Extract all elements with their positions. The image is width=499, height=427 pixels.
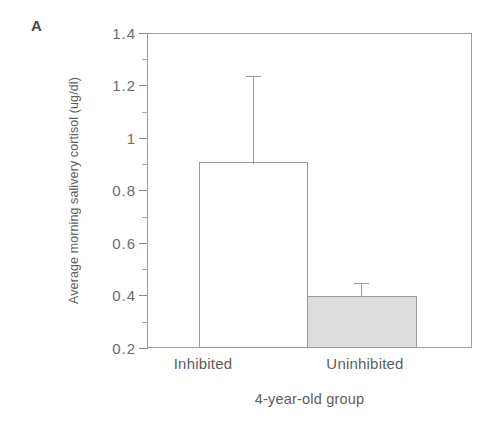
error-bar-cap-uninhibited <box>354 283 369 284</box>
x-axis-title: 4-year-old group <box>147 391 472 407</box>
error-bar-stem-uninhibited <box>361 283 362 297</box>
y-tick-label-1-4: 1.4 <box>76 25 136 42</box>
bar-inhibited <box>199 162 308 348</box>
panel-label: A <box>31 17 42 34</box>
figure-panel-a: A Average morning salivery cortisol (ug/… <box>0 0 499 427</box>
error-bar-stem-inhibited <box>253 76 254 164</box>
y-tick-label-0-4: 0.4 <box>76 287 136 304</box>
x-tick-label-inhibited: Inhibited <box>143 355 263 372</box>
y-tick-label-0-8: 0.8 <box>76 182 136 199</box>
y-tick-label-1-2: 1.2 <box>76 77 136 94</box>
y-axis-tick-labels: 1.4 1.2 1 0.8 0.6 0.4 0.2 <box>72 0 136 427</box>
y-tick-label-0-6: 0.6 <box>76 235 136 252</box>
x-tick-label-uninhibited: Uninhibited <box>295 355 435 372</box>
plot-area <box>147 33 472 348</box>
error-bar-cap-inhibited <box>246 76 261 77</box>
y-tick-label-1: 1 <box>76 130 136 147</box>
bar-uninhibited <box>307 296 417 348</box>
y-tick-label-0-2: 0.2 <box>76 340 136 357</box>
y-tick-major-0-2 <box>139 348 148 349</box>
